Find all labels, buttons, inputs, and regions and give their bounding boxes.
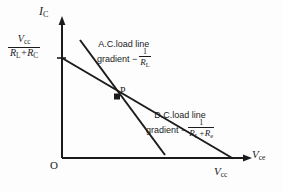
- y-axis: [59, 16, 66, 158]
- dc-load-line: [62, 58, 233, 159]
- figure-canvas: [0, 0, 283, 192]
- dc-gradient-denominator: RL+Re: [188, 127, 214, 141]
- dc-gradient-fraction: 1 RL+Re: [188, 119, 214, 141]
- x-axis-title-symbol: V: [252, 148, 259, 160]
- dc-annotation-line2: gradient − 1 RL+Re: [146, 120, 214, 142]
- ac-annotation-rows: A.C.load line gradient − 1 RL: [97, 40, 151, 71]
- y-intercept-denominator: RL+RC: [8, 47, 40, 61]
- dc-gradient-text: gradient −: [146, 126, 186, 136]
- x-axis: [62, 155, 252, 162]
- dc-load-line-annotation: D.C.load line gradient − 1 RL+Re: [146, 111, 214, 142]
- y-intercept-label: Vcc RL+RC: [8, 34, 40, 60]
- operating-point-label: P: [120, 86, 126, 97]
- ac-annotation-line2: gradient − 1 RL: [97, 49, 151, 71]
- y-axis-title: IC: [39, 5, 48, 19]
- x-intercept-symbol: V: [214, 165, 221, 177]
- load-line-figure: IC Vce O Vcc Vcc RL+RC A.C.load line gra…: [0, 0, 283, 192]
- ac-gradient-denominator: RL: [139, 56, 150, 70]
- origin-label: O: [50, 160, 58, 172]
- dc-annotation-rows: D.C.load line gradient − 1 RL+Re: [146, 111, 214, 142]
- x-intercept-label: Vcc: [214, 166, 227, 179]
- dc-gradient-numerator: 1: [188, 119, 214, 127]
- x-intercept-subscript: cc: [221, 170, 228, 179]
- x-axis-title: Vce: [252, 149, 265, 162]
- y-intercept-numerator: Vcc: [8, 34, 40, 47]
- y-intercept-fraction: Vcc RL+RC: [8, 34, 40, 60]
- ac-gradient-fraction: 1 RL: [139, 48, 150, 70]
- y-axis-title-subscript: C: [43, 10, 48, 19]
- ac-gradient-text: gradient −: [97, 55, 137, 65]
- x-axis-title-subscript: ce: [259, 153, 266, 162]
- ac-gradient-numerator: 1: [139, 48, 150, 56]
- ac-load-line-annotation: A.C.load line gradient − 1 RL: [97, 40, 151, 71]
